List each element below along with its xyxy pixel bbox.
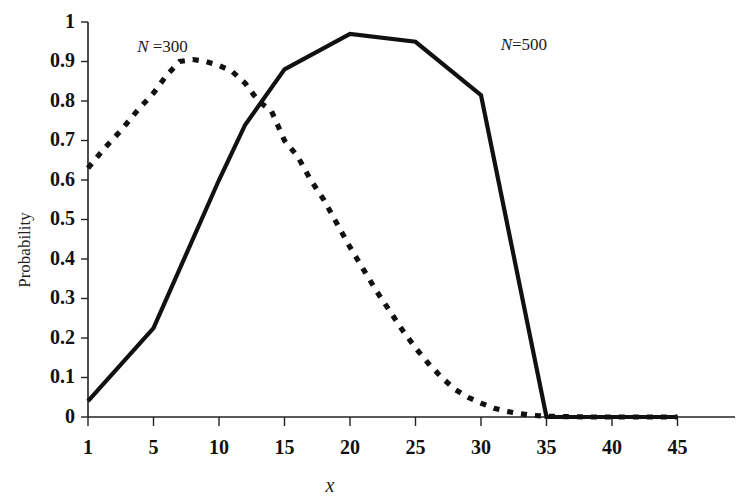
probability-line-chart: 00.10.20.30.40.50.60.70.80.91 1510152025… bbox=[0, 0, 741, 501]
x-tick-label: 1 bbox=[83, 436, 93, 458]
x-tick-label: 45 bbox=[668, 436, 688, 458]
x-tick-label: 35 bbox=[537, 436, 557, 458]
y-tick-label: 0.1 bbox=[50, 365, 75, 387]
y-tick-label: 0 bbox=[65, 405, 75, 427]
series-label-n300: N =300 bbox=[136, 37, 188, 56]
series-line-n500 bbox=[88, 34, 678, 417]
y-tick-label: 0.9 bbox=[50, 49, 75, 71]
x-axis-title: x bbox=[325, 474, 335, 496]
x-tick-label: 30 bbox=[471, 436, 491, 458]
x-tick-label: 25 bbox=[406, 436, 426, 458]
x-tick-label: 40 bbox=[602, 436, 622, 458]
series-line-n300 bbox=[88, 60, 678, 417]
y-tick-label: 0.3 bbox=[50, 286, 75, 308]
x-tick-label: 15 bbox=[275, 436, 295, 458]
chart-figure: 00.10.20.30.40.50.60.70.80.91 1510152025… bbox=[0, 0, 741, 501]
x-tick-label: 5 bbox=[149, 436, 159, 458]
y-tick-label: 0.5 bbox=[50, 207, 75, 229]
x-tick-label: 20 bbox=[340, 436, 360, 458]
y-tick-label: 0.2 bbox=[50, 326, 75, 348]
y-tick-label: 0.6 bbox=[50, 168, 75, 190]
y-axis-title: Probability bbox=[15, 212, 34, 288]
x-axis-tick-labels: 151015202530354045 bbox=[83, 436, 688, 458]
y-tick-label: 0.8 bbox=[50, 89, 75, 111]
axes-group bbox=[81, 22, 735, 426]
y-tick-label: 1 bbox=[65, 10, 75, 32]
y-axis-ticks bbox=[81, 22, 88, 417]
y-axis-tick-labels: 00.10.20.30.40.50.60.70.80.91 bbox=[50, 10, 75, 427]
series-group bbox=[88, 34, 678, 417]
y-tick-label: 0.4 bbox=[50, 247, 75, 269]
y-tick-label: 0.7 bbox=[50, 128, 75, 150]
x-tick-label: 10 bbox=[209, 436, 229, 458]
series-label-n500: N=500 bbox=[500, 35, 547, 54]
